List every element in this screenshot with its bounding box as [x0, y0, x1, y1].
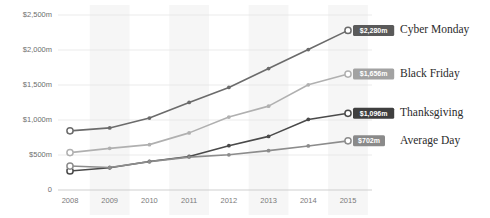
series-point-marker — [108, 126, 112, 130]
legend: Cyber MondayBlack FridayThanksgivingAver… — [400, 23, 470, 146]
series-point-marker — [267, 67, 271, 71]
series-endpoint-marker — [345, 71, 351, 77]
plot-band — [169, 5, 209, 215]
legend-label-thanksgiving: Thanksgiving — [400, 106, 463, 119]
series-endpoint-marker — [345, 138, 351, 144]
series-endpoint-marker — [345, 27, 351, 33]
series-point-marker — [148, 143, 152, 147]
series-point-marker — [187, 155, 191, 159]
series-point-marker — [108, 146, 112, 150]
series-point-marker — [187, 131, 191, 135]
series-point-marker — [267, 104, 271, 108]
chart-screenshot: $2,500m$2,000m$1,500m$1,000m$500m0 20082… — [0, 0, 490, 218]
y-axis-tick-label: $1,500m — [23, 80, 52, 89]
series-point-marker — [227, 115, 231, 119]
x-axis-tick-label: 2010 — [141, 196, 158, 205]
y-axis-tick-label: $500m — [29, 150, 52, 159]
x-axis-tick-label: 2015 — [340, 196, 357, 205]
series-point-marker — [187, 101, 191, 105]
series-point-marker — [227, 86, 231, 90]
line-chart: $2,500m$2,000m$1,500m$1,000m$500m0 20082… — [0, 0, 490, 218]
series-point-marker — [306, 48, 310, 52]
x-axis-tick-label: 2009 — [101, 196, 118, 205]
series-point-marker — [267, 149, 271, 153]
x-axis-tick-label: 2013 — [260, 196, 277, 205]
series-endpoint-marker — [67, 128, 73, 134]
x-axis-tick-label: 2012 — [221, 196, 238, 205]
series-point-marker — [148, 116, 152, 120]
y-axis-tick-label: $1,000m — [23, 115, 52, 124]
series-point-marker — [306, 118, 310, 122]
legend-label-average-day: Average Day — [400, 134, 460, 147]
value-badge-label: $2,280m — [360, 27, 388, 35]
y-axis-tick-label: 0 — [48, 185, 52, 194]
x-axis-tick-label: 2014 — [300, 196, 317, 205]
series-endpoint-marker — [67, 150, 73, 156]
x-axis-tick-label: 2008 — [62, 196, 79, 205]
legend-label-cyber-monday: Cyber Monday — [400, 23, 470, 36]
y-axis-tick-label: $2,500m — [23, 10, 52, 19]
x-axis-tick-label: 2011 — [181, 196, 197, 205]
series-point-marker — [306, 83, 310, 87]
series-point-marker — [306, 144, 310, 148]
y-axis-labels: $2,500m$2,000m$1,500m$1,000m$500m0 — [23, 10, 52, 194]
value-badge-label: $702m — [358, 137, 380, 145]
series-point-marker — [267, 134, 271, 138]
value-badge-label: $1,096m — [360, 110, 388, 118]
plot-bands — [90, 5, 368, 215]
series-endpoint-marker — [345, 110, 351, 116]
series-point-marker — [227, 153, 231, 157]
series-point-marker — [227, 144, 231, 148]
series-point-marker — [148, 160, 152, 164]
series-endpoint-marker — [67, 163, 73, 169]
y-axis-tick-label: $2,000m — [23, 45, 52, 54]
value-badge-label: $1,656m — [360, 70, 388, 78]
legend-label-black-friday: Black Friday — [400, 67, 460, 80]
series-point-marker — [108, 166, 112, 170]
plot-band — [90, 5, 130, 215]
